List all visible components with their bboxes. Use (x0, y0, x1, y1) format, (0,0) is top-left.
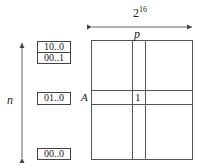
row-key-box: 01..0 (37, 92, 71, 105)
row-key-box: 00..1 (37, 52, 71, 64)
column-label-p: p (134, 28, 140, 40)
row-key-box: 00..0 (37, 148, 71, 160)
cell-value: 1 (135, 92, 141, 103)
table-grid (92, 41, 193, 160)
width-label-exponent: 16 (139, 5, 147, 14)
row-label-a: A (81, 92, 88, 103)
width-label: 216 (133, 6, 147, 19)
diagram-canvas (0, 0, 202, 167)
height-label-n: n (7, 94, 13, 106)
